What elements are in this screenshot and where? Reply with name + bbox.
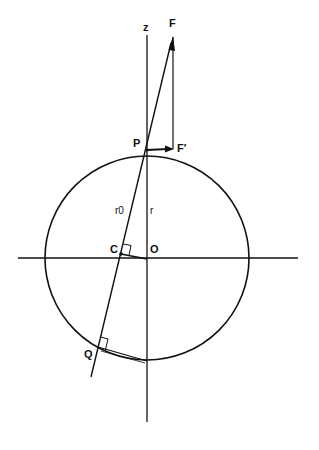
force-line-FQ [91,43,171,377]
arrow-head-F-icon [169,36,176,51]
segment-Q-bottom-inner [101,351,145,363]
label-F: F [169,17,176,29]
label-z: z [143,21,149,33]
point-C [119,252,123,256]
label-O: O [150,243,159,255]
geometry-diagram: z F F′ P r0 r C O Q [0,0,319,450]
label-r: r [150,205,154,216]
label-F-prime: F′ [177,142,187,154]
tangential-force-PFprime [147,149,168,150]
label-r0: r0 [115,205,124,216]
label-Q: Q [84,348,93,360]
point-P [146,149,149,152]
right-angle-C-icon [124,244,132,256]
label-C: C [110,243,118,255]
label-P: P [133,137,140,149]
